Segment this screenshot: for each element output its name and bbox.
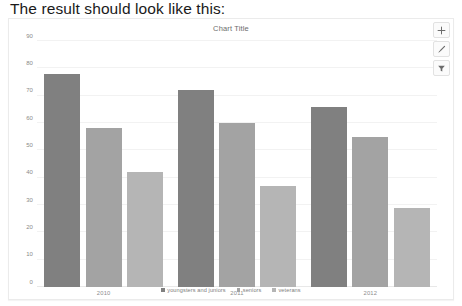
bar[interactable] xyxy=(219,123,255,287)
chart-panel: Chart Title xyxy=(8,18,454,300)
plus-icon xyxy=(437,26,446,35)
y-axis-tick-label: 80 xyxy=(26,60,33,66)
y-axis-tick-label: 0 xyxy=(30,279,33,285)
y-axis-tick-label: 40 xyxy=(26,169,33,175)
bar[interactable] xyxy=(260,186,296,287)
bar[interactable] xyxy=(127,172,163,287)
brush-icon xyxy=(437,45,446,54)
filter-button[interactable] xyxy=(433,60,450,76)
y-axis-tick-label: 10 xyxy=(26,251,33,257)
y-axis-tick-label: 60 xyxy=(26,115,33,121)
legend-label: seniors xyxy=(243,287,262,293)
y-axis-tick-label: 50 xyxy=(26,142,33,148)
legend-swatch xyxy=(161,288,165,292)
bar-group: 2012 xyxy=(304,41,437,287)
legend-swatch xyxy=(237,288,241,292)
bar[interactable] xyxy=(86,128,122,287)
y-axis-tick-label: 20 xyxy=(26,224,33,230)
legend-label: veterans xyxy=(278,287,300,293)
bar[interactable] xyxy=(44,74,80,287)
legend-item[interactable]: youngsters and juniors xyxy=(161,287,225,293)
bar[interactable] xyxy=(394,208,430,287)
chart-toolbar xyxy=(433,22,450,76)
y-axis-tick-label: 90 xyxy=(26,33,33,39)
legend-swatch xyxy=(272,288,276,292)
plot-area: 0102030405060708090 201020112012 xyxy=(37,41,437,287)
y-axis-tick-label: 30 xyxy=(26,197,33,203)
chart-title: Chart Title xyxy=(9,24,453,33)
add-button[interactable] xyxy=(433,22,450,38)
page-heading: The result should look like this: xyxy=(10,0,225,17)
format-button[interactable] xyxy=(433,41,450,57)
bar[interactable] xyxy=(352,137,388,287)
chart-legend: youngsters and juniorsseniorsveterans xyxy=(9,287,453,293)
bar-group: 2011 xyxy=(170,41,303,287)
bar[interactable] xyxy=(178,90,214,287)
legend-label: youngsters and juniors xyxy=(167,287,225,293)
legend-item[interactable]: seniors xyxy=(237,287,262,293)
y-axis-tick-label: 70 xyxy=(26,87,33,93)
bar-group: 2010 xyxy=(37,41,170,287)
filter-icon xyxy=(437,64,446,73)
legend-item[interactable]: veterans xyxy=(272,287,300,293)
bar[interactable] xyxy=(311,107,347,287)
